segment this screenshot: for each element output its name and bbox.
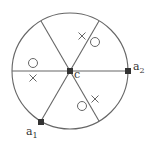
open-circle-marker [78, 102, 87, 111]
point-a2 [125, 68, 131, 74]
cross-marker [30, 75, 37, 82]
spoke-line [41, 21, 70, 71]
point-label-a1: a1 [26, 125, 38, 140]
point-label-a2: a2 [133, 60, 145, 75]
center-point [67, 68, 73, 74]
center-label: c [74, 68, 80, 81]
spoke-line [41, 71, 70, 121]
point-a1 [38, 119, 44, 125]
cross-marker [92, 96, 99, 103]
diagram-canvas: ca1a2 [0, 0, 149, 143]
open-circle-marker [29, 59, 38, 68]
open-circle-marker [91, 38, 100, 47]
cross-marker [79, 33, 86, 40]
